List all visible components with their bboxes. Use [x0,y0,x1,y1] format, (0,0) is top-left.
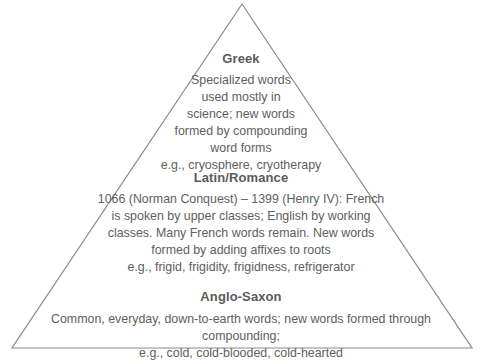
tier-title: Anglo-Saxon [0,289,482,305]
tier-text-line: used mostly in [0,89,482,106]
tier-text-line: science; new words [0,106,482,123]
tier-text-line: classes. Many French words remain. New w… [0,225,482,242]
tier-text-line: 1066 (Norman Conquest) – 1399 (Henry IV)… [0,191,482,208]
tier-anglo-saxon: Anglo-Saxon Common, everyday, down-to-ea… [0,289,482,362]
tier-greek: Greek Specialized words used mostly in s… [0,51,482,174]
tier-title: Latin/Romance [0,170,482,186]
tier-text-line: word forms [0,140,482,157]
tier-title: Greek [0,51,482,67]
tier-text-line: is spoken by upper classes; English by w… [0,208,482,225]
tier-example-line: e.g., cold, cold-blooded, cold-hearted [0,345,482,362]
tier-text-line: formed by compounding [0,123,482,140]
tier-text-line: formed by adding affixes to roots [0,242,482,259]
tier-text-line: compounding; [0,328,482,345]
tier-text-line: Specialized words [0,72,482,89]
tier-text-line: Common, everyday, down-to-earth words; n… [0,311,482,328]
tier-latin-romance: Latin/Romance 1066 (Norman Conquest) – 1… [0,170,482,276]
tier-example-line: e.g., frigid, frigidity, frigidness, ref… [0,259,482,276]
